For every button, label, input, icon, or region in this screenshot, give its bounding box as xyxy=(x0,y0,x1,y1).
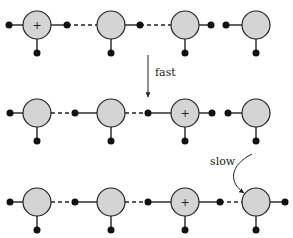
slow-arrow xyxy=(234,154,252,193)
fast-label: fast xyxy=(155,66,176,79)
slow-label: slow xyxy=(210,155,236,168)
diagram-canvas: + fast + slow xyxy=(0,0,293,238)
charge-plus-icon: + xyxy=(180,107,189,120)
charge-plus-icon: + xyxy=(32,19,41,32)
hydrogen-bond-chain-diagram: + fast + slow xyxy=(0,0,293,238)
charge-plus-icon: + xyxy=(180,196,189,209)
